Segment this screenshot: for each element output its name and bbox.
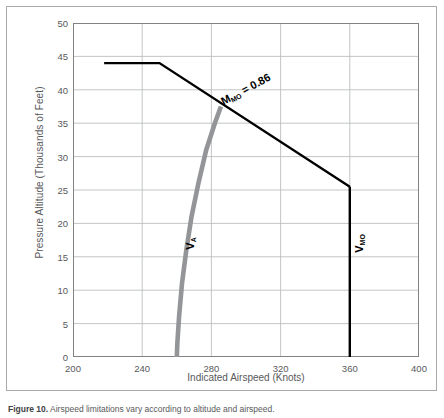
figure-root: Pressure Altitude (Thousands of Feet) In… [0, 0, 444, 418]
y-tick-label: 45 [57, 51, 68, 62]
x-axis-title: Indicated Airspeed (Knots) [73, 372, 419, 383]
plot-canvas: MMO = 0.86VMOVA [73, 23, 419, 357]
y-tick-label: 35 [57, 118, 68, 129]
y-tick-label: 40 [57, 84, 68, 95]
y-tick-label: 5 [63, 318, 68, 329]
x-tick-label: 400 [411, 363, 427, 374]
y-tick-label: 0 [63, 352, 68, 363]
svg-text:VMO: VMO [353, 234, 366, 253]
y-tick-label: 25 [57, 185, 68, 196]
y-tick-label: 10 [57, 285, 68, 296]
x-tick-label: 320 [273, 363, 289, 374]
svg-text:MMO = 0.86: MMO = 0.86 [219, 71, 273, 108]
figure-caption-number: Figure 10. [8, 404, 48, 414]
series-line [104, 63, 350, 187]
plot-area: MMO = 0.86VMOVA 051015202530354045502002… [73, 23, 419, 357]
mmo-label: MMO = 0.86 [219, 71, 273, 108]
va-label: VA [184, 237, 197, 249]
y-tick-label: 20 [57, 218, 68, 229]
x-tick-label: 280 [203, 363, 219, 374]
figure-caption: Figure 10. Airspeed limitations vary acc… [8, 404, 438, 418]
chart-frame: Pressure Altitude (Thousands of Feet) In… [6, 6, 437, 391]
x-tick-label: 240 [134, 363, 150, 374]
vmo-label: VMO [353, 234, 366, 253]
y-tick-label: 15 [57, 251, 68, 262]
y-axis-title: Pressure Altitude (Thousands of Feet) [34, 23, 45, 323]
figure-caption-text: Airspeed limitations vary according to a… [50, 404, 274, 414]
y-tick-label: 50 [57, 18, 68, 29]
svg-text:VA: VA [184, 237, 197, 249]
y-tick-label: 30 [57, 151, 68, 162]
x-tick-label: 360 [342, 363, 358, 374]
series-line [177, 107, 221, 358]
x-tick-label: 200 [65, 363, 81, 374]
